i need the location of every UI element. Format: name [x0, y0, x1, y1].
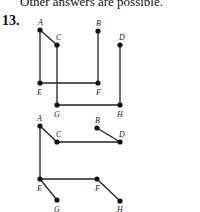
vertex-A: [37, 27, 42, 32]
vertex-label-H: H: [116, 205, 124, 212]
vertex-label-F: F: [94, 184, 100, 193]
vertex-label-G: G: [54, 110, 60, 119]
vertex-label-B: B: [96, 19, 101, 28]
vertex-label-D: D: [118, 130, 125, 139]
edge-A-C: [40, 30, 57, 45]
vertex-B: [94, 125, 99, 130]
vertex-F: [95, 80, 100, 85]
vertex-E: [37, 80, 42, 85]
graph-top: ABCDEFGH: [36, 18, 125, 119]
vertex-F: [94, 176, 99, 181]
edge-A-C: [40, 126, 57, 142]
vertex-label-F: F: [95, 88, 101, 97]
edge-B-D: [97, 128, 120, 142]
vertex-label-C: C: [56, 33, 62, 42]
edge-E-G: [40, 179, 57, 200]
vertex-label-A: A: [36, 114, 42, 123]
vertex-label-B: B: [95, 116, 100, 125]
vertex-label-E: E: [36, 88, 42, 97]
edge-F-H: [97, 179, 120, 201]
vertex-E: [37, 176, 42, 181]
vertex-C: [54, 139, 59, 144]
vertex-label-C: C: [56, 130, 62, 139]
graph-figures: ABCDEFGHABCDEFGH: [0, 0, 200, 212]
vertex-D: [117, 42, 122, 47]
vertex-G: [54, 197, 59, 202]
vertex-H: [117, 102, 122, 107]
vertex-label-A: A: [37, 18, 43, 27]
vertex-H: [117, 198, 122, 203]
vertex-B: [95, 28, 100, 33]
vertex-A: [37, 123, 42, 128]
vertex-label-H: H: [116, 110, 124, 119]
graph-bottom: ABCDEFGH: [36, 114, 125, 212]
vertex-D: [117, 139, 122, 144]
vertex-G: [54, 102, 59, 107]
vertex-label-D: D: [118, 33, 125, 42]
vertex-C: [54, 42, 59, 47]
vertex-label-G: G: [54, 205, 60, 212]
vertex-label-E: E: [36, 184, 42, 193]
